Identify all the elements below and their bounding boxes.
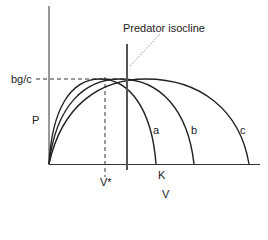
bg-c-label: bg/c [11, 74, 32, 85]
curve-b-label: b [191, 125, 197, 136]
y-axis-label: P [32, 115, 39, 126]
curve-c-label: c [240, 125, 246, 136]
curve-c [49, 79, 249, 164]
curve-a-label: a [153, 125, 159, 136]
v-star-label: V* [100, 177, 112, 188]
k-label: K [158, 170, 165, 181]
isocline-label: Predator isocline [123, 23, 205, 34]
isocline-leader-line [130, 34, 160, 66]
x-axis-label: V [162, 189, 169, 200]
